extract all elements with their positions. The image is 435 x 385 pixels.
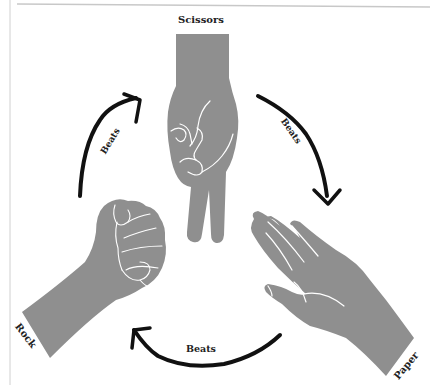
arrow-scissors-beats-paper <box>258 96 340 204</box>
diagram-canvas <box>0 0 435 385</box>
beats-label-paper-rock: Beats <box>186 343 216 354</box>
top-border <box>17 4 430 7</box>
scissors-label: Scissors <box>178 14 224 25</box>
open-hand-icon <box>251 211 414 376</box>
